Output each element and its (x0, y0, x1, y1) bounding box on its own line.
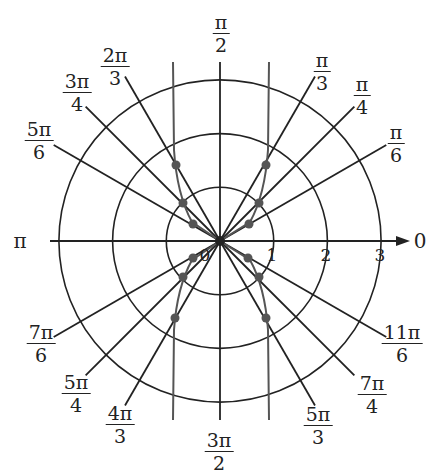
plot-point (172, 161, 181, 170)
angle-label-numerator: 4π (106, 403, 135, 425)
angle-label-numerator: π (388, 122, 405, 144)
angle-label-numerator: 11π (382, 322, 423, 344)
angle-label-denominator: 4 (358, 395, 387, 416)
plot-point (179, 273, 188, 282)
plot-point (255, 199, 264, 208)
angle-label-denominator: 2 (205, 452, 234, 473)
axis-label-zero: 0 (414, 229, 427, 253)
angle-label: 5π6 (25, 119, 54, 162)
ray-135 (86, 107, 220, 241)
tick-3: 3 (375, 245, 386, 265)
plot-point (255, 273, 264, 282)
plot-point (171, 314, 180, 323)
angle-label-denominator: 3 (106, 425, 135, 446)
angle-label-denominator: 6 (382, 344, 423, 365)
angle-label: π4 (354, 74, 371, 117)
angle-label: π3 (314, 50, 331, 93)
angle-label-numerator: 5π (62, 372, 91, 394)
angle-label-denominator: 4 (63, 93, 92, 114)
angle-label: 7π4 (358, 373, 387, 416)
plot-point (245, 220, 254, 229)
plot-point (179, 199, 188, 208)
angle-label-numerator: 7π (358, 373, 387, 395)
angle-label-denominator: 6 (25, 141, 54, 162)
plot-point (262, 161, 271, 170)
tick-2: 2 (321, 245, 332, 265)
angle-label: 3π2 (205, 430, 234, 473)
plot-point (262, 314, 271, 323)
angle-label-denominator: 3 (304, 426, 333, 447)
ray-45 (220, 107, 354, 241)
angle-label: π2 (213, 12, 230, 55)
origin-point (215, 236, 225, 246)
angle-label-denominator: 4 (354, 96, 371, 117)
axis-label-pi: π (13, 229, 26, 253)
angle-label: 5π3 (304, 404, 333, 447)
plot-point (189, 254, 198, 263)
angle-label-numerator: 7π (27, 322, 56, 344)
angle-label-numerator: 3π (63, 71, 92, 93)
angle-label-denominator: 3 (101, 67, 130, 88)
tick-0: 0 (200, 245, 211, 265)
angle-label: 7π6 (27, 322, 56, 365)
angle-label: 11π6 (382, 322, 423, 365)
angle-label-numerator: 2π (101, 45, 130, 67)
angle-label-denominator: 6 (388, 144, 405, 165)
angle-label-numerator: 3π (205, 430, 234, 452)
ray-315 (220, 241, 354, 375)
plot-point (244, 254, 253, 263)
angle-label-denominator: 2 (213, 34, 230, 55)
angle-label-denominator: 3 (314, 72, 331, 93)
angle-label: 3π4 (63, 71, 92, 114)
angle-label-numerator: π (354, 74, 371, 96)
angle-label-numerator: π (213, 12, 230, 34)
angle-label-denominator: 4 (62, 394, 91, 415)
angle-label: π6 (388, 122, 405, 165)
arrow-head-icon (396, 236, 410, 246)
angle-label-numerator: 5π (304, 404, 333, 426)
angle-label: 2π3 (101, 45, 130, 88)
plot-point (189, 220, 198, 229)
polar-axis (50, 236, 410, 246)
angle-label-denominator: 6 (27, 344, 56, 365)
angle-label: 5π4 (62, 372, 91, 415)
angle-label: 4π3 (106, 403, 135, 446)
angle-label-numerator: π (314, 50, 331, 72)
angle-label-numerator: 5π (25, 119, 54, 141)
tick-1: 1 (267, 245, 278, 265)
